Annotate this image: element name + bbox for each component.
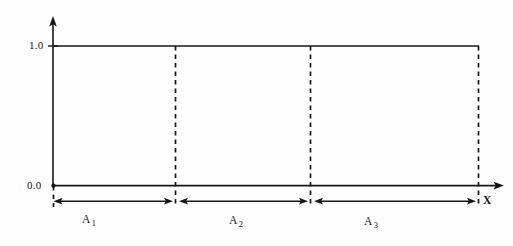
region-label-a3-sub: 3 [372,220,378,230]
region-label-a1-sub: 1 [90,218,96,228]
y-axis [49,16,57,186]
span-arrow-a3 [314,198,476,205]
y-tick-label-zero: 0.0 [27,179,42,191]
uniform-density-figure: 1.0 0.0 X A1 A2 A3 [0,0,513,246]
region-label-a2: A2 [229,214,243,229]
y-tick-label-one: 1.0 [29,39,44,51]
region-label-a3: A3 [364,215,378,230]
region-label-a2-sub: 2 [237,219,243,229]
span-arrow-a2 [179,198,308,205]
x-axis [51,182,504,190]
region-label-a1: A1 [82,213,96,228]
x-axis-label: X [483,194,491,206]
span-arrow-a1 [54,198,174,205]
figure-canvas [0,0,513,246]
